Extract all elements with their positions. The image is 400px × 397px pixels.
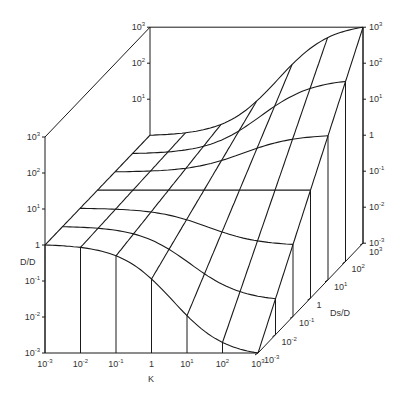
k-tick-label: 10-3 — [37, 358, 53, 369]
mesh-line-k — [115, 136, 328, 172]
z-tick-label-right: 103 — [369, 21, 383, 32]
z-tick-label-left: 1 — [35, 240, 40, 250]
z-tick-label-right: 1 — [369, 130, 374, 140]
z-tick-label-back: 102 — [132, 57, 146, 68]
ds-axis-title: Ds/D — [330, 308, 351, 318]
ds-tick-label: 10-1 — [299, 317, 315, 328]
z-tick-label-back: 103 — [132, 21, 146, 32]
z-tick-label-back: 101 — [132, 93, 146, 104]
ds-tick-label: 1 — [317, 300, 322, 310]
surface-plot: 10-310-210-1110110210310110210310-310-21… — [0, 0, 400, 397]
z-tick-label-left: 10-2 — [25, 311, 41, 322]
ds-tick-label: 10-2 — [282, 336, 298, 347]
mesh-line-k — [133, 82, 346, 154]
z-tick-label-right: 101 — [369, 93, 383, 104]
k-axis-title: K — [148, 374, 154, 384]
z-tick-label-left: 10-1 — [25, 275, 41, 286]
top-left-edge — [45, 27, 150, 137]
z-tick-label-right: 10-1 — [369, 165, 385, 176]
z-axis-title: D/D — [20, 257, 36, 267]
z-tick-label-right: 102 — [369, 57, 383, 68]
ds-tick-label: 101 — [334, 281, 348, 292]
k-tick-label: 101 — [180, 358, 194, 369]
k-tick-label: 1 — [149, 359, 154, 369]
ds-tick-label: 103 — [369, 246, 383, 257]
ds-tick-label: 10-3 — [264, 354, 280, 365]
z-tick-label-left: 101 — [27, 203, 41, 214]
ds-tick-label: 102 — [352, 263, 366, 274]
z-tick-label-right: 10-2 — [369, 201, 385, 212]
z-tick-label-left: 103 — [27, 131, 41, 142]
mesh-line-k — [63, 227, 276, 299]
z-tick-label-left: 102 — [27, 167, 41, 178]
z-tick-label-left: 10-3 — [25, 347, 41, 358]
k-tick-label: 10-2 — [73, 358, 89, 369]
surface-plot-svg: 10-310-210-1110110210310110210310-310-21… — [0, 0, 400, 397]
k-tick-label: 102 — [216, 358, 230, 369]
k-tick-label: 10-1 — [108, 358, 124, 369]
